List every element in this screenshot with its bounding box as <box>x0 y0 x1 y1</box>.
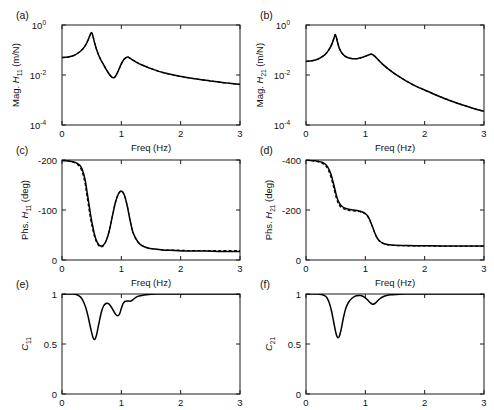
xtick-label-a-2: 2 <box>178 128 183 139</box>
panel-label-a: (a) <box>16 9 29 21</box>
panel-label-c: (c) <box>16 144 28 156</box>
ytick-label-e-0: 0 <box>52 389 57 400</box>
panel-label-f: (f) <box>260 278 270 290</box>
xtick-label-a-1: 1 <box>119 128 124 139</box>
xtick-label-b-2: 2 <box>422 128 427 139</box>
xtick-label-a-3: 3 <box>237 128 242 139</box>
figure-canvas: (a)0123Freq (Hz)10-410-2100Mag. H11 (m/N… <box>0 0 494 410</box>
xtick-label-b-0: 0 <box>303 128 308 139</box>
xtick-label-a-0: 0 <box>59 128 64 139</box>
xaxis-label-d: Freq (Hz) <box>375 277 415 288</box>
ytick-label-c-2: -200 <box>38 155 57 166</box>
figure-svg: (a)0123Freq (Hz)10-410-2100Mag. H11 (m/N… <box>0 0 494 410</box>
ytick-label-d-2: -400 <box>282 155 301 166</box>
xtick-label-b-3: 3 <box>481 128 486 139</box>
ytick-label-f-0: 0 <box>296 389 301 400</box>
ytick-label-f-1: 0.5 <box>288 339 301 350</box>
xtick-label-f-2: 2 <box>422 397 427 408</box>
ytick-label-c-1: -100 <box>38 205 57 216</box>
xtick-label-d-2: 2 <box>422 263 427 274</box>
xtick-label-f-1: 1 <box>363 397 368 408</box>
xtick-label-e-1: 1 <box>119 397 124 408</box>
ytick-label-d-1: -200 <box>282 205 301 216</box>
xtick-label-e-3: 3 <box>237 397 242 408</box>
xtick-label-c-0: 0 <box>59 263 64 274</box>
xaxis-label-c: Freq (Hz) <box>131 277 171 288</box>
ytick-label-f-2: 1 <box>296 289 301 300</box>
panel-label-b: (b) <box>260 9 273 21</box>
xtick-label-f-3: 3 <box>481 397 486 408</box>
figure-background <box>0 0 494 410</box>
xtick-label-d-3: 3 <box>481 263 486 274</box>
xtick-label-f-0: 0 <box>303 397 308 408</box>
xtick-label-d-1: 1 <box>363 263 368 274</box>
xtick-label-c-1: 1 <box>119 263 124 274</box>
xtick-label-b-1: 1 <box>363 128 368 139</box>
xtick-label-e-0: 0 <box>59 397 64 408</box>
ytick-label-c-0: 0 <box>52 255 57 266</box>
ytick-label-e-2: 1 <box>52 289 57 300</box>
xtick-label-c-3: 3 <box>237 263 242 274</box>
xtick-label-e-2: 2 <box>178 397 183 408</box>
ytick-label-d-0: 0 <box>296 255 301 266</box>
xaxis-label-a: Freq (Hz) <box>131 142 171 153</box>
xtick-label-d-0: 0 <box>303 263 308 274</box>
ytick-label-e-1: 0.5 <box>44 339 57 350</box>
xaxis-label-b: Freq (Hz) <box>375 142 415 153</box>
panel-label-e: (e) <box>16 278 29 290</box>
panel-label-d: (d) <box>260 144 273 156</box>
xtick-label-c-2: 2 <box>178 263 183 274</box>
